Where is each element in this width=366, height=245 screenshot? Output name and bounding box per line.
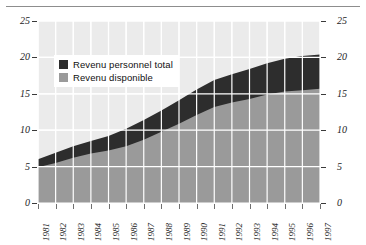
x-tick-mark (285, 204, 286, 209)
y-tick-mark-right (321, 57, 326, 58)
x-tick-mark (38, 204, 39, 209)
x-tick-mark (214, 204, 215, 209)
y-tick-mark-right (321, 130, 326, 131)
legend-swatch-icon-total (59, 60, 68, 69)
x-tick-label: 1994 (271, 223, 280, 241)
y-tick-mark-left (32, 130, 37, 131)
y-tick-label-left: 15 (20, 89, 30, 99)
x-tick-label: 1983 (77, 223, 86, 241)
y-tick-label-left: 0 (25, 198, 30, 208)
legend-label-total: Revenu personnel total (73, 59, 173, 70)
x-tick-label: 1993 (253, 223, 262, 241)
legend-item-total: Revenu personnel total (59, 58, 173, 71)
x-axis-labels: 1981198219831984198519861987198819891990… (38, 209, 320, 243)
y-axis-right: 0510152025 (328, 21, 354, 203)
x-tick-label: 1986 (130, 223, 139, 241)
y-tick-label-right: 25 (337, 16, 347, 26)
x-tick-label: 1985 (112, 223, 121, 241)
y-tick-mark-left (32, 57, 37, 58)
x-tick-label: 1982 (59, 223, 68, 241)
chart-legend: Revenu personnel total Revenu disponible (54, 55, 179, 87)
legend-item-disponible: Revenu disponible (59, 71, 173, 84)
x-tick-mark (126, 204, 127, 209)
chart-figure: 0510152025 0510152025 198119821983198419… (0, 0, 366, 245)
y-tick-label-right: 20 (337, 52, 347, 62)
x-tick-mark (197, 204, 198, 209)
y-tick-mark-right (321, 203, 326, 204)
x-tick-mark (91, 204, 92, 209)
x-tick-label: 1991 (218, 223, 227, 241)
x-tick-label: 1990 (200, 223, 209, 241)
y-tick-mark-left (32, 203, 37, 204)
plot-area (38, 21, 320, 203)
y-tick-label-right: 10 (337, 125, 347, 135)
y-tick-label-right: 0 (337, 198, 342, 208)
x-tick-label: 1988 (165, 223, 174, 241)
x-tick-label: 1987 (147, 223, 156, 241)
y-tick-mark-right (321, 94, 326, 95)
y-tick-label-left: 25 (20, 16, 30, 26)
area-chart-svg (38, 21, 320, 203)
y-tick-label-right: 15 (337, 89, 347, 99)
x-tick-mark (302, 204, 303, 209)
x-tick-mark (267, 204, 268, 209)
x-tick-label: 1995 (288, 223, 297, 241)
y-tick-mark-right (321, 167, 326, 168)
legend-label-disponible: Revenu disponible (73, 72, 153, 83)
x-tick-mark (56, 204, 57, 209)
x-tick-mark (320, 204, 321, 209)
y-tick-mark-left (32, 21, 37, 22)
top-divider-rule (6, 6, 360, 7)
x-tick-label: 1981 (42, 223, 51, 241)
x-tick-label: 1997 (324, 223, 333, 241)
y-tick-mark-left (32, 167, 37, 168)
x-tick-label: 1996 (306, 223, 315, 241)
x-tick-label: 1984 (94, 223, 103, 241)
x-tick-label: 1989 (183, 223, 192, 241)
x-tick-mark (109, 204, 110, 209)
x-tick-mark (250, 204, 251, 209)
x-tick-mark (232, 204, 233, 209)
legend-swatch-icon-disponible (59, 73, 68, 82)
x-tick-mark (179, 204, 180, 209)
y-tick-label-right: 5 (337, 162, 342, 172)
x-tick-mark (73, 204, 74, 209)
x-tick-label: 1992 (235, 223, 244, 241)
y-axis-left: 0510152025 (8, 21, 30, 203)
x-tick-mark (161, 204, 162, 209)
y-tick-label-left: 5 (25, 162, 30, 172)
y-tick-label-left: 10 (20, 125, 30, 135)
y-tick-mark-right (321, 21, 326, 22)
y-tick-label-left: 20 (20, 52, 30, 62)
y-tick-mark-left (32, 94, 37, 95)
x-tick-mark (144, 204, 145, 209)
